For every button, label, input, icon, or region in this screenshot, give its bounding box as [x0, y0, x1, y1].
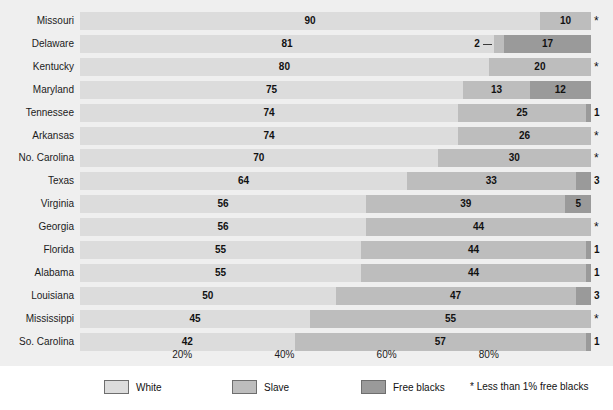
chart-row: Tennessee74251 [0, 104, 613, 122]
free-blacks-outside-label: 1 [594, 104, 600, 122]
free-blacks-outside-label: 1 [594, 241, 600, 259]
free-blacks-outside-label: 3 [594, 287, 600, 305]
x-axis-tick-label: 60% [377, 349, 397, 360]
segment-free-blacks[interactable] [586, 104, 591, 122]
x-axis-tick-label: 80% [479, 349, 499, 360]
row-state-label: Missouri [0, 12, 74, 30]
stacked-bar[interactable]: 4257 [80, 333, 591, 351]
x-axis: 20%40%60%80% [0, 349, 613, 365]
segment-value-label: 30 [438, 149, 591, 167]
segment-slave[interactable] [494, 35, 504, 53]
segment-value-label: 45 [80, 310, 310, 328]
segment-free-blacks[interactable] [586, 241, 591, 259]
segment-value-label: 81 [80, 35, 494, 53]
stacked-bar[interactable]: 5047 [80, 287, 591, 305]
segment-value-label: 64 [80, 172, 407, 190]
row-state-label: Mississippi [0, 310, 74, 328]
row-state-label: Texas [0, 172, 74, 190]
legend-item-white[interactable]: White [104, 379, 162, 395]
free-blacks-outside-label: 3 [594, 172, 600, 190]
chart-row: Louisiana50473 [0, 287, 613, 305]
legend-swatch [361, 380, 386, 394]
chart-row: Arkansas7426* [0, 127, 613, 145]
row-state-label: Tennessee [0, 104, 74, 122]
footnote-asterisk: * [594, 127, 599, 145]
stacked-bar[interactable]: 7030 [80, 149, 591, 167]
stacked-bar[interactable]: 5544 [80, 241, 591, 259]
leader-line [483, 44, 492, 45]
row-state-label: So. Carolina [0, 333, 74, 351]
row-state-label: Delaware [0, 35, 74, 53]
segment-value-label: 57 [295, 333, 586, 351]
segment-value-label: 55 [80, 264, 361, 282]
legend-item-slave[interactable]: Slave [232, 379, 289, 395]
segment-value-label: 55 [310, 310, 591, 328]
segment-value-label: 56 [80, 195, 366, 213]
footnote-asterisk: * [594, 218, 599, 236]
stacked-bar[interactable]: 81217 [80, 35, 591, 53]
footnote-asterisk: * [594, 149, 599, 167]
legend-swatch [104, 380, 129, 394]
chart-row: Virginia56395 [0, 195, 613, 213]
chart-row: Texas64333 [0, 172, 613, 190]
chart-row: Delaware81217 [0, 35, 613, 53]
chart-row: Florida55441 [0, 241, 613, 259]
segment-value-label: 55 [80, 241, 361, 259]
x-axis-tick-label: 20% [172, 349, 192, 360]
segment-value-label: 5 [565, 195, 591, 213]
plot-area: Missouri9010*Delaware81217Kentucky8020*M… [0, 0, 613, 366]
segment-value-label: 26 [458, 127, 591, 145]
segment-value-label: 74 [80, 127, 458, 145]
segment-value-label: 25 [458, 104, 586, 122]
segment-value-label: 70 [80, 149, 438, 167]
row-state-label: Arkansas [0, 127, 74, 145]
chart-row: So. Carolina42571 [0, 333, 613, 351]
segment-value-label: 20 [489, 58, 591, 76]
segment-value-label: 44 [361, 264, 586, 282]
stacked-bar[interactable]: 5644 [80, 218, 591, 236]
segment-value-label: 2 [454, 35, 480, 53]
segment-free-blacks[interactable] [586, 333, 591, 351]
segment-value-label: 33 [407, 172, 576, 190]
segment-value-label: 42 [80, 333, 295, 351]
footnote-asterisk: * [594, 58, 599, 76]
legend-item-free-blacks[interactable]: Free blacks [361, 379, 445, 395]
chart-row: Maryland751312 [0, 81, 613, 99]
free-blacks-outside-label: 1 [594, 264, 600, 282]
stacked-bar[interactable]: 751312 [80, 81, 591, 99]
segment-value-label: 50 [80, 287, 336, 305]
chart-row: Mississippi4555* [0, 310, 613, 328]
row-state-label: Kentucky [0, 58, 74, 76]
segment-value-label: 80 [80, 58, 489, 76]
segment-free-blacks[interactable] [576, 287, 591, 305]
chart-row: Georgia5644* [0, 218, 613, 236]
legend-label: Slave [264, 382, 289, 393]
row-state-label: Louisiana [0, 287, 74, 305]
stacked-bar[interactable]: 4555 [80, 310, 591, 328]
stacked-bar[interactable]: 56395 [80, 195, 591, 213]
stacked-bar[interactable]: 8020 [80, 58, 591, 76]
stacked-bar[interactable]: 7426 [80, 127, 591, 145]
segment-value-label: 47 [336, 287, 576, 305]
legend-label: Free blacks [393, 382, 445, 393]
footnote-asterisk: * [594, 12, 599, 30]
chart-legend: WhiteSlaveFree blacks* Less than 1% free… [0, 366, 613, 410]
footnote-asterisk: * [594, 310, 599, 328]
row-state-label: Georgia [0, 218, 74, 236]
stacked-bar[interactable]: 5544 [80, 264, 591, 282]
segment-value-label: 44 [361, 241, 586, 259]
chart-row: No. Carolina7030* [0, 149, 613, 167]
segment-value-label: 56 [80, 218, 366, 236]
legend-footnote: * Less than 1% free blacks [470, 379, 588, 395]
chart-row: Kentucky8020* [0, 58, 613, 76]
stacked-bar[interactable]: 6433 [80, 172, 591, 190]
x-axis-tick-label: 40% [274, 349, 294, 360]
chart-root: Missouri9010*Delaware81217Kentucky8020*M… [0, 0, 613, 410]
legend-swatch [232, 380, 257, 394]
segment-free-blacks[interactable] [576, 172, 591, 190]
stacked-bar[interactable]: 9010 [80, 12, 591, 30]
segment-value-label: 39 [366, 195, 565, 213]
chart-row: Alabama55441 [0, 264, 613, 282]
stacked-bar[interactable]: 7425 [80, 104, 591, 122]
segment-free-blacks[interactable] [586, 264, 591, 282]
